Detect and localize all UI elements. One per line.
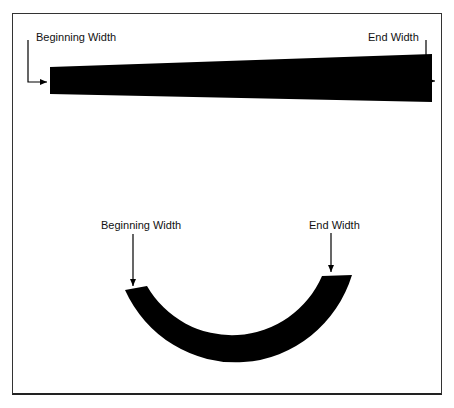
straight-begin-width-label: Beginning Width [36,31,116,43]
straight-end-width-label: End Width [368,31,419,43]
curved-begin-width-label: Beginning Width [101,219,181,231]
begin-width-leader [28,40,47,82]
tapered-curved-stroke [125,275,352,362]
curved-end-width-label: End Width [309,219,360,231]
tapered-straight-stroke [50,54,432,102]
diagram-canvas [0,0,454,408]
